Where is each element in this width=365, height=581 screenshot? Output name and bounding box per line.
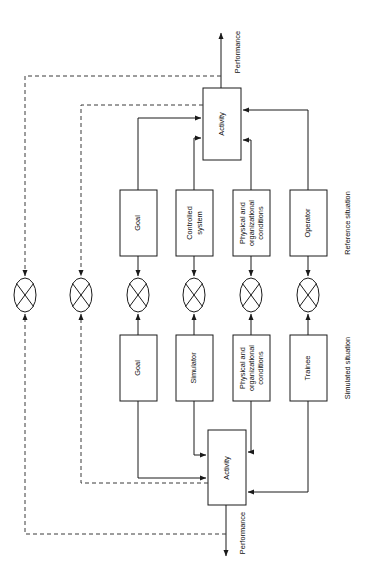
- comparator-performance-outer: [14, 278, 36, 312]
- svg-text:system: system: [195, 211, 204, 234]
- simulated-performance-label: Performance: [238, 512, 247, 554]
- reference-activity-label: Activity: [217, 112, 226, 136]
- reference-conditions-label: Physical and organizational conditions: [238, 200, 265, 246]
- svg-text:Physical and: Physical and: [238, 347, 247, 389]
- reference-goal-label: Goal: [133, 215, 142, 231]
- simulated-goal-label: Goal: [133, 360, 142, 376]
- svg-text:conditions: conditions: [256, 206, 265, 240]
- simulated-situation-label: Simulated situation: [343, 337, 352, 399]
- svg-text:Physical and: Physical and: [238, 202, 247, 244]
- comparator-performance-inner: [70, 278, 92, 312]
- svg-text:Controlled: Controlled: [185, 206, 194, 240]
- simulated-conditions-label: Physical and organizational conditions: [238, 345, 265, 391]
- reference-performance-label: Performance: [233, 31, 242, 73]
- svg-text:conditions: conditions: [256, 351, 265, 385]
- comparator-person: [297, 278, 319, 312]
- comparator-conditions: [240, 278, 262, 312]
- comparator-goal: [127, 278, 149, 312]
- simulated-activity-label: Activity: [222, 456, 231, 480]
- diagram-canvas: Performance Activity Goal Controlled sys…: [0, 0, 365, 581]
- simulated-trainee-label: Trainee: [303, 356, 312, 381]
- reference-operator-label: Operator: [303, 208, 312, 238]
- svg-text:organizational: organizational: [247, 345, 256, 391]
- reference-situation-label: Reference situation: [343, 191, 352, 255]
- svg-text:organizational: organizational: [247, 200, 256, 246]
- simulated-simulator-label: Simulator: [189, 352, 198, 384]
- comparator-system: [183, 278, 205, 312]
